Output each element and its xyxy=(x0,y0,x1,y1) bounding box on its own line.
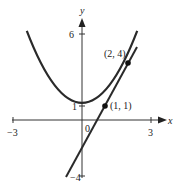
parabola-secant-figure: y x 6 1 −4 −3 3 0 (1, 1) (2, 4) xyxy=(0,0,177,182)
y-axis-arrow-icon xyxy=(79,18,86,27)
y-axis-label: y xyxy=(79,5,85,16)
x-tick-label-minus3: −3 xyxy=(7,127,18,138)
x-tick-label-3: 3 xyxy=(148,127,153,138)
point-1-1 xyxy=(102,103,108,109)
point-label-2-4: (2, 4) xyxy=(104,48,126,60)
secant-line xyxy=(66,47,137,177)
point-2-4 xyxy=(125,60,131,66)
y-tick-label-1: 1 xyxy=(72,101,77,112)
y-tick-label-6: 6 xyxy=(69,29,74,40)
plot-canvas: y x 6 1 −4 −3 3 0 (1, 1) (2, 4) xyxy=(0,0,177,182)
x-axis-label: x xyxy=(167,115,173,126)
point-label-1-1: (1, 1) xyxy=(110,100,132,112)
y-tick-label-minus4: −4 xyxy=(70,172,81,182)
x-axis-arrow-icon xyxy=(158,117,167,124)
origin-label: 0 xyxy=(85,123,90,134)
